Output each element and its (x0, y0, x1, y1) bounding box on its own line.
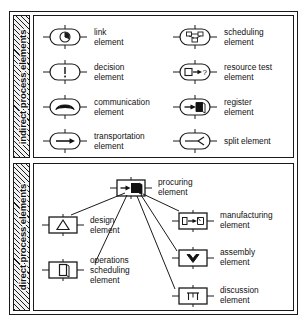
arrow-into-filled-block-icon (108, 176, 154, 200)
legend-label-split-element: split element (224, 136, 271, 146)
exclamation-icon (42, 59, 88, 85)
table-meeting-icon (170, 283, 216, 309)
node-operations-scheduling-element[interactable]: operations scheduling element (40, 257, 86, 283)
legend-item-register-element[interactable]: register element (172, 94, 254, 120)
legend-label-register-element: register element (224, 97, 254, 117)
legend-label-link-element: link element (94, 27, 124, 47)
node-label-design-element: design element (90, 215, 120, 235)
section-label-indirect: indirect process elements (16, 29, 27, 144)
chevron-down-icon (170, 245, 216, 271)
node-procuring-element[interactable]: procuring element (108, 176, 154, 200)
node-assembly-element[interactable]: assembly element (170, 245, 216, 271)
legend-item-resource-test-element[interactable]: ? resource test element (172, 59, 272, 85)
box-arrow-box-icon (170, 208, 216, 234)
box-arrow-question-icon: ? (172, 59, 218, 85)
legend-label-decision-element: decision element (94, 62, 124, 82)
legend-item-transportation-element[interactable]: transportation element (42, 128, 145, 154)
node-label-discussion-element: discussion element (220, 285, 259, 305)
svg-text:?: ? (202, 68, 207, 77)
diagram-canvas: indirect process elements direct process… (0, 0, 307, 327)
clock-icon (42, 24, 88, 50)
legend-label-communication-element: communication element (94, 97, 150, 117)
node-label-procuring-element: procuring element (158, 177, 193, 197)
node-discussion-element[interactable]: discussion element (170, 283, 216, 309)
legend-item-split-element[interactable]: split element (172, 128, 271, 154)
arrow-into-book-icon (172, 94, 218, 120)
legend-label-resource-test-element: resource test element (224, 62, 272, 82)
vertical-block-icon (40, 257, 86, 283)
node-manufacturing-element[interactable]: manufacturing element (170, 208, 216, 234)
legend-item-link-element[interactable]: link element (42, 24, 124, 50)
legend-item-communication-element[interactable]: communication element (42, 94, 150, 120)
legend-item-scheduling-element[interactable]: scheduling element (172, 24, 264, 50)
node-label-assembly-element: assembly element (220, 247, 255, 267)
fork-split-icon (172, 128, 218, 154)
triangle-icon (40, 212, 86, 238)
node-design-element[interactable]: design element (40, 212, 86, 238)
network-tree-icon (172, 24, 218, 50)
section-label-bar-direct: direct process elements (13, 163, 30, 311)
section-label-direct: direct process elements (16, 184, 27, 290)
node-label-manufacturing-element: manufacturing element (220, 210, 273, 230)
section-label-bar-indirect: indirect process elements (13, 15, 30, 158)
legend-label-transportation-element: transportation element (94, 131, 145, 151)
legend-label-scheduling-element: scheduling element (224, 27, 264, 47)
legend-item-decision-element[interactable]: decision element (42, 59, 124, 85)
arrow-right-icon (42, 128, 88, 154)
node-label-operations-scheduling-element: operations scheduling element (90, 255, 130, 285)
phone-handset-icon (42, 94, 88, 120)
